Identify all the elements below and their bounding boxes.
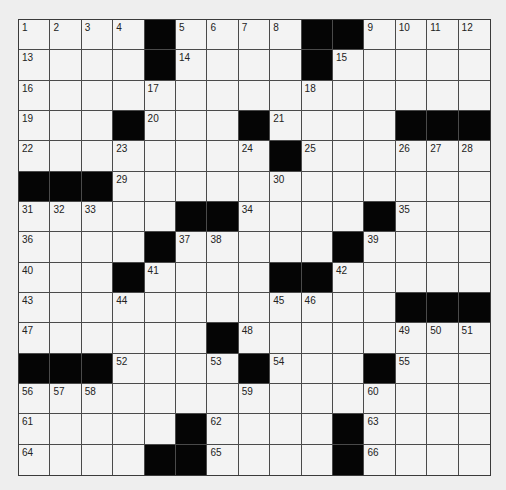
grid-cell[interactable] <box>82 445 113 475</box>
grid-cell[interactable] <box>364 263 395 293</box>
grid-cell[interactable] <box>302 354 333 384</box>
grid-cell[interactable] <box>239 293 270 323</box>
grid-cell[interactable] <box>270 384 301 414</box>
grid-cell[interactable]: 54 <box>270 354 301 384</box>
grid-cell[interactable] <box>302 384 333 414</box>
grid-cell[interactable] <box>270 232 301 262</box>
grid-cell[interactable]: 17 <box>145 81 176 111</box>
grid-cell[interactable]: 40 <box>19 263 50 293</box>
grid-cell[interactable] <box>239 414 270 444</box>
grid-cell[interactable] <box>427 384 458 414</box>
grid-cell[interactable]: 27 <box>427 141 458 171</box>
grid-cell[interactable] <box>270 414 301 444</box>
grid-cell[interactable]: 8 <box>270 20 301 50</box>
grid-cell[interactable] <box>333 111 364 141</box>
grid-cell[interactable]: 16 <box>19 81 50 111</box>
grid-cell[interactable] <box>113 50 144 80</box>
grid-cell[interactable] <box>50 293 81 323</box>
grid-cell[interactable] <box>82 293 113 323</box>
grid-cell[interactable] <box>82 50 113 80</box>
grid-cell[interactable]: 2 <box>50 20 81 50</box>
grid-cell[interactable] <box>427 445 458 475</box>
grid-cell[interactable]: 14 <box>176 50 207 80</box>
grid-cell[interactable] <box>145 414 176 444</box>
grid-cell[interactable] <box>270 323 301 353</box>
grid-cell[interactable]: 33 <box>82 202 113 232</box>
grid-cell[interactable] <box>270 445 301 475</box>
grid-cell[interactable] <box>459 81 490 111</box>
grid-cell[interactable]: 35 <box>396 202 427 232</box>
grid-cell[interactable]: 37 <box>176 232 207 262</box>
grid-cell[interactable] <box>270 202 301 232</box>
grid-cell[interactable] <box>302 172 333 202</box>
grid-cell[interactable] <box>364 323 395 353</box>
grid-cell[interactable]: 48 <box>239 323 270 353</box>
grid-cell[interactable]: 61 <box>19 414 50 444</box>
grid-cell[interactable]: 22 <box>19 141 50 171</box>
grid-cell[interactable] <box>302 111 333 141</box>
grid-cell[interactable] <box>459 172 490 202</box>
grid-cell[interactable]: 19 <box>19 111 50 141</box>
grid-cell[interactable]: 36 <box>19 232 50 262</box>
grid-cell[interactable] <box>207 50 238 80</box>
grid-cell[interactable] <box>82 81 113 111</box>
grid-cell[interactable]: 49 <box>396 323 427 353</box>
grid-cell[interactable] <box>50 232 81 262</box>
grid-cell[interactable] <box>145 323 176 353</box>
grid-cell[interactable] <box>207 141 238 171</box>
grid-cell[interactable] <box>364 141 395 171</box>
grid-cell[interactable] <box>239 232 270 262</box>
grid-cell[interactable]: 10 <box>396 20 427 50</box>
grid-cell[interactable]: 7 <box>239 20 270 50</box>
grid-cell[interactable]: 4 <box>113 20 144 50</box>
grid-cell[interactable] <box>145 354 176 384</box>
grid-cell[interactable]: 25 <box>302 141 333 171</box>
grid-cell[interactable] <box>145 141 176 171</box>
grid-cell[interactable]: 53 <box>207 354 238 384</box>
grid-cell[interactable]: 26 <box>396 141 427 171</box>
grid-cell[interactable]: 47 <box>19 323 50 353</box>
grid-cell[interactable]: 6 <box>207 20 238 50</box>
grid-cell[interactable]: 11 <box>427 20 458 50</box>
grid-cell[interactable] <box>364 50 395 80</box>
grid-cell[interactable] <box>302 323 333 353</box>
grid-cell[interactable] <box>176 293 207 323</box>
grid-cell[interactable] <box>176 81 207 111</box>
grid-cell[interactable]: 57 <box>50 384 81 414</box>
grid-cell[interactable]: 63 <box>364 414 395 444</box>
grid-cell[interactable] <box>82 111 113 141</box>
grid-cell[interactable] <box>427 50 458 80</box>
grid-cell[interactable] <box>176 141 207 171</box>
grid-cell[interactable] <box>207 172 238 202</box>
grid-cell[interactable] <box>176 263 207 293</box>
grid-cell[interactable]: 5 <box>176 20 207 50</box>
grid-cell[interactable] <box>459 354 490 384</box>
grid-cell[interactable] <box>333 141 364 171</box>
grid-cell[interactable] <box>239 172 270 202</box>
grid-cell[interactable]: 29 <box>113 172 144 202</box>
grid-cell[interactable]: 32 <box>50 202 81 232</box>
grid-cell[interactable] <box>459 263 490 293</box>
grid-cell[interactable]: 60 <box>364 384 395 414</box>
grid-cell[interactable] <box>113 202 144 232</box>
grid-cell[interactable]: 64 <box>19 445 50 475</box>
grid-cell[interactable] <box>50 414 81 444</box>
grid-cell[interactable] <box>427 354 458 384</box>
grid-cell[interactable] <box>333 384 364 414</box>
grid-cell[interactable] <box>207 111 238 141</box>
grid-cell[interactable] <box>459 232 490 262</box>
grid-cell[interactable] <box>207 384 238 414</box>
grid-cell[interactable]: 52 <box>113 354 144 384</box>
grid-cell[interactable] <box>113 414 144 444</box>
grid-cell[interactable] <box>427 232 458 262</box>
grid-cell[interactable] <box>50 445 81 475</box>
grid-cell[interactable]: 65 <box>207 445 238 475</box>
grid-cell[interactable] <box>145 384 176 414</box>
grid-cell[interactable]: 62 <box>207 414 238 444</box>
grid-cell[interactable] <box>82 141 113 171</box>
grid-cell[interactable] <box>50 111 81 141</box>
grid-cell[interactable] <box>459 414 490 444</box>
grid-cell[interactable]: 39 <box>364 232 395 262</box>
grid-cell[interactable]: 31 <box>19 202 50 232</box>
grid-cell[interactable]: 23 <box>113 141 144 171</box>
